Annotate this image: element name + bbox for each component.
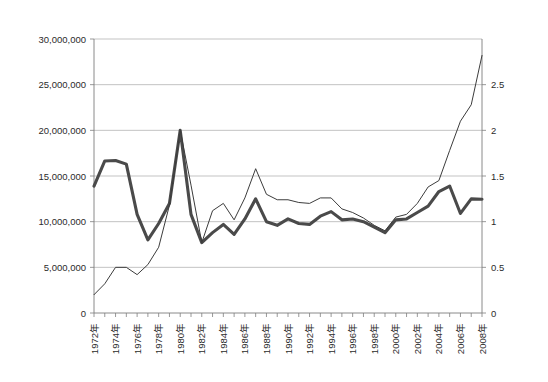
x-axis-ticks <box>94 313 482 317</box>
series-line-series-thick <box>94 130 482 242</box>
y-tick-label-left: 15,000,000 <box>38 171 86 182</box>
y-tick-label-left: 25,000,000 <box>38 79 86 90</box>
x-tick-label: 1992年 <box>304 323 315 354</box>
y-tick-label-right: 0.5 <box>491 262 504 273</box>
chart-container: 05,000,00010,000,00015,000,00020,000,000… <box>0 0 548 382</box>
x-tick-label: 1980年 <box>175 323 186 354</box>
y-tick-label-right: 2 <box>491 125 496 136</box>
x-tick-label: 1996年 <box>347 323 358 354</box>
x-tick-label: 1972年 <box>89 323 100 354</box>
x-tick-label: 1974年 <box>110 323 121 354</box>
x-tick-label: 1984年 <box>218 323 229 354</box>
y-tick-label-right: 2.5 <box>491 79 504 90</box>
y-tick-label-left: 10,000,000 <box>38 216 86 227</box>
x-tick-label: 1978年 <box>153 323 164 354</box>
x-tick-label: 2000年 <box>390 323 401 354</box>
x-tick-label: 1994年 <box>326 323 337 354</box>
y-tick-label-left: 20,000,000 <box>38 125 86 136</box>
y-tick-label-right: 1.5 <box>491 171 504 182</box>
y-tick-label-left: 0 <box>81 308 86 319</box>
x-tick-label: 1976年 <box>132 323 143 354</box>
x-tick-label: 1998年 <box>369 323 380 354</box>
y-tick-label-left: 30,000,000 <box>38 34 86 45</box>
y-tick-label-right: 0 <box>491 308 496 319</box>
x-tick-label: 2002年 <box>412 323 423 354</box>
x-tick-label: 2006年 <box>455 323 466 354</box>
x-tick-label: 1986年 <box>239 323 250 354</box>
x-axis-labels: 1972年1974年1976年1978年1980年1982年1984年1986年… <box>89 323 488 354</box>
y-tick-label-left: 5,000,000 <box>44 262 86 273</box>
x-tick-label: 1982年 <box>196 323 207 354</box>
series-line-series-thin <box>94 55 482 294</box>
line-chart: 05,000,00010,000,00015,000,00020,000,000… <box>0 0 548 382</box>
y-axis-right: 00.511.522.5 <box>482 79 504 318</box>
y-axis-left: 05,000,00010,000,00015,000,00020,000,000… <box>38 34 94 319</box>
x-tick-label: 2004年 <box>433 323 444 354</box>
x-tick-label: 1990年 <box>283 323 294 354</box>
x-tick-label: 2008年 <box>477 323 488 354</box>
series-group <box>94 55 482 294</box>
y-tick-label-right: 1 <box>491 216 496 227</box>
x-tick-label: 1988年 <box>261 323 272 354</box>
